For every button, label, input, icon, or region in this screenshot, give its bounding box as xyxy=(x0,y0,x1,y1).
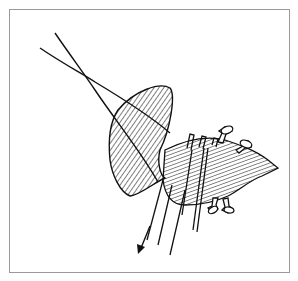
pull-arrow-icon xyxy=(137,226,150,254)
dome-cap xyxy=(109,86,172,196)
vessel xyxy=(163,125,278,215)
illustration xyxy=(0,0,298,281)
